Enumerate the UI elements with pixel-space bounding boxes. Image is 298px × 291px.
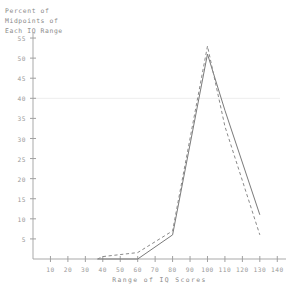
y-tick-label-35: 35 — [8, 115, 26, 122]
y-tick-label-55: 55 — [8, 35, 26, 42]
series-line-dashed — [98, 46, 260, 259]
x-axis-caption: Range of IQ Scores — [112, 276, 206, 284]
y-tick-label-45: 45 — [8, 75, 26, 82]
x-tick-label-80: 80 — [168, 266, 176, 273]
x-tick-label-140: 140 — [271, 266, 284, 273]
y-tick-label-50: 50 — [8, 55, 26, 62]
y-tick-label-10: 10 — [8, 215, 26, 222]
plot-area — [0, 0, 298, 291]
plot-canvas — [0, 0, 298, 291]
y-tick-label-25: 25 — [8, 155, 26, 162]
x-tick-label-40: 40 — [99, 266, 107, 273]
x-tick-label-20: 20 — [64, 266, 72, 273]
x-tick-label-60: 60 — [133, 266, 141, 273]
y-tick-label-15: 15 — [8, 195, 26, 202]
x-tick-label-120: 120 — [236, 266, 249, 273]
x-tick-label-50: 50 — [116, 266, 124, 273]
chart-figure: Percent of Midpoints of Each IQ Range 51… — [0, 0, 298, 291]
x-tick-label-70: 70 — [151, 266, 159, 273]
x-tick-label-130: 130 — [253, 266, 266, 273]
y-tick-label-20: 20 — [8, 175, 26, 182]
x-tick-label-110: 110 — [219, 266, 232, 273]
x-tick-label-30: 30 — [81, 266, 89, 273]
y-tick-label-30: 30 — [8, 135, 26, 142]
x-tick-label-100: 100 — [201, 266, 214, 273]
series-line-solid — [98, 54, 260, 259]
y-tick-label-40: 40 — [8, 95, 26, 102]
y-tick-label-5: 5 — [8, 235, 26, 242]
x-tick-label-10: 10 — [46, 266, 54, 273]
x-tick-label-90: 90 — [186, 266, 194, 273]
